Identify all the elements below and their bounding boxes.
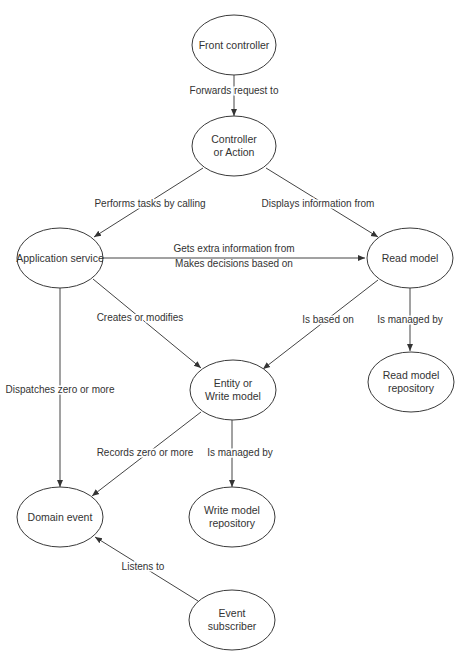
edge-label: Forwards request to <box>190 85 279 96</box>
edge-performs-tasks: Performs tasks by calling <box>94 168 206 237</box>
edge-label: Listens to <box>122 561 165 572</box>
edge-label: Records zero or more <box>97 447 194 458</box>
edge-label: Gets extra information from <box>173 243 294 254</box>
edge-gets-extra-information: Gets extra information from Makes decisi… <box>103 243 365 269</box>
edge-creates-or-modifies: Creates or modifies <box>93 279 201 368</box>
node-label: Application service <box>16 252 104 264</box>
node-read-model-repository: Read model repository <box>368 352 454 412</box>
node-label: Domain event <box>28 511 93 523</box>
node-application-service: Application service <box>16 228 104 288</box>
node-write-model-repository: Write model repository <box>189 487 275 547</box>
edge-forwards-request: Forwards request to <box>190 75 279 116</box>
architecture-diagram: Forwards request to Performs tasks by ca… <box>0 0 474 661</box>
node-label-line2: or Action <box>214 146 255 158</box>
edge-label: Displays information from <box>262 198 375 209</box>
edge-read-model-managed-by: Is managed by <box>377 288 443 351</box>
node-label-line1: Write model <box>204 504 260 516</box>
edge-label: Is based on <box>302 314 354 325</box>
edge-label: Creates or modifies <box>97 312 184 323</box>
edge-label-secondary: Makes decisions based on <box>175 258 293 269</box>
node-label-line1: Event <box>219 607 246 619</box>
node-label-line2: Write model <box>205 390 261 402</box>
edge-label: Performs tasks by calling <box>94 198 205 209</box>
edge-entity-managed-by: Is managed by <box>207 420 273 487</box>
node-event-subscriber: Event subscriber <box>189 590 275 650</box>
node-read-model: Read model <box>367 228 453 288</box>
node-label: Read model <box>382 252 439 264</box>
node-label-line1: Read model <box>383 369 440 381</box>
edge-label: Is managed by <box>207 447 273 458</box>
edge-label: Is managed by <box>377 314 443 325</box>
edge-is-based-on: Is based on <box>263 280 378 369</box>
node-front-controller: Front controller <box>192 15 276 75</box>
edge-records-zero-or-more: Records zero or more <box>92 412 201 496</box>
node-domain-event: Domain event <box>17 487 103 547</box>
node-label-line1: Entity or <box>214 377 253 389</box>
edge-listens-to: Listens to <box>95 537 198 601</box>
edge-displays-information: Displays information from <box>262 168 378 237</box>
node-controller-or-action: Controller or Action <box>192 116 276 176</box>
edge-label: Dispatches zero or more <box>6 384 115 395</box>
node-label: Front controller <box>199 39 270 51</box>
node-label-line2: subscriber <box>208 620 257 632</box>
node-label-line2: repository <box>388 382 435 394</box>
node-entity-or-write-model: Entity or Write model <box>190 360 276 420</box>
node-label-line1: Controller <box>211 133 257 145</box>
node-label-line2: repository <box>209 517 256 529</box>
